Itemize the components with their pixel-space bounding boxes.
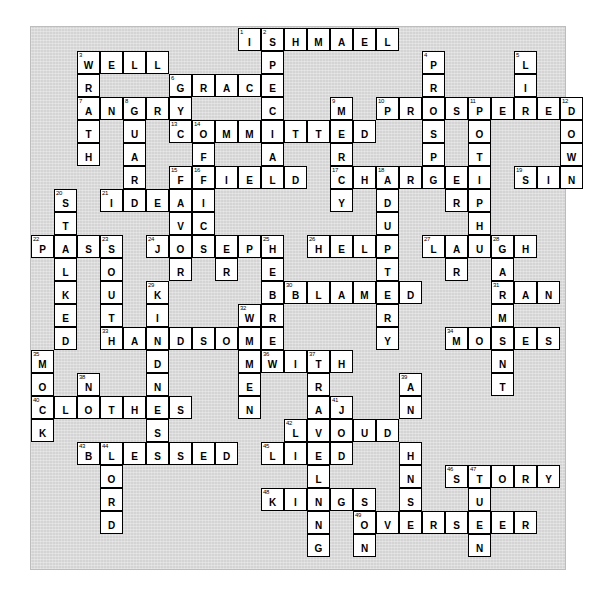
crossword-cell[interactable]: H	[468, 212, 491, 235]
crossword-cell[interactable]: 17C	[330, 166, 353, 189]
crossword-cell[interactable]: L	[353, 235, 376, 258]
crossword-cell[interactable]: R	[514, 465, 537, 488]
crossword-cell[interactable]: G	[307, 534, 330, 557]
crossword-cell[interactable]: H	[77, 143, 100, 166]
crossword-cell[interactable]: A	[514, 281, 537, 304]
crossword-cell[interactable]: D	[54, 327, 77, 350]
crossword-cell[interactable]: D	[284, 166, 307, 189]
crossword-cell[interactable]: E	[514, 327, 537, 350]
crossword-cell[interactable]: O	[422, 97, 445, 120]
crossword-cell[interactable]: Y	[169, 97, 192, 120]
crossword-cell[interactable]: Y	[330, 189, 353, 212]
crossword-cell[interactable]: M	[238, 120, 261, 143]
crossword-cell[interactable]: E	[353, 28, 376, 51]
crossword-cell[interactable]: D	[353, 120, 376, 143]
crossword-cell[interactable]: R	[169, 258, 192, 281]
crossword-cell[interactable]: N	[537, 281, 560, 304]
crossword-cell[interactable]: 45L	[261, 442, 284, 465]
crossword-cell[interactable]: E	[192, 442, 215, 465]
crossword-cell[interactable]: D	[146, 350, 169, 373]
crossword-cell[interactable]: U	[468, 488, 491, 511]
crossword-cell[interactable]: W	[560, 143, 583, 166]
crossword-cell[interactable]: K	[31, 419, 54, 442]
crossword-cell[interactable]: E	[330, 235, 353, 258]
crossword-cell[interactable]: 29K	[146, 281, 169, 304]
crossword-cell[interactable]: D	[100, 511, 123, 534]
crossword-cell[interactable]: 15F	[169, 166, 192, 189]
crossword-cell[interactable]: 6G	[169, 74, 192, 97]
crossword-cell[interactable]: R	[307, 373, 330, 396]
crossword-cell[interactable]: R	[445, 258, 468, 281]
crossword-cell[interactable]: N	[399, 465, 422, 488]
crossword-cell[interactable]: N	[146, 373, 169, 396]
crossword-cell[interactable]: T	[77, 120, 100, 143]
crossword-cell[interactable]: R	[330, 143, 353, 166]
crossword-cell[interactable]: 30B	[284, 281, 307, 304]
crossword-cell[interactable]: 3W	[77, 51, 100, 74]
crossword-cell[interactable]: 41J	[330, 396, 353, 419]
crossword-cell[interactable]: S	[77, 235, 100, 258]
crossword-cell[interactable]: O	[330, 419, 353, 442]
crossword-cell[interactable]: 14O	[192, 120, 215, 143]
crossword-cell[interactable]: U	[123, 120, 146, 143]
crossword-cell[interactable]: U	[468, 235, 491, 258]
crossword-cell[interactable]: M	[215, 120, 238, 143]
crossword-cell[interactable]: A	[445, 235, 468, 258]
crossword-cell[interactable]: H	[514, 235, 537, 258]
crossword-cell[interactable]: I	[261, 120, 284, 143]
crossword-grid[interactable]: 1I2SHMAEL3WELLP4P5LR6GRACERI7AN8GRYC9M10…	[31, 27, 565, 569]
crossword-cell[interactable]: V	[307, 419, 330, 442]
crossword-cell[interactable]: I	[284, 350, 307, 373]
crossword-cell[interactable]: O	[468, 120, 491, 143]
crossword-board[interactable]: 1I2SHMAEL3WELLP4P5LR6GRACERI7AN8GRYC9M10…	[30, 26, 566, 570]
crossword-cell[interactable]: L	[307, 465, 330, 488]
crossword-cell[interactable]: E	[261, 258, 284, 281]
crossword-cell[interactable]: L	[307, 281, 330, 304]
crossword-cell[interactable]: S	[192, 327, 215, 350]
crossword-cell[interactable]: H	[353, 166, 376, 189]
crossword-cell[interactable]: E	[146, 189, 169, 212]
crossword-cell[interactable]: S	[146, 419, 169, 442]
crossword-cell[interactable]: D	[376, 419, 399, 442]
crossword-cell[interactable]: T	[54, 212, 77, 235]
crossword-cell[interactable]: 32W	[238, 304, 261, 327]
crossword-cell[interactable]: 11P	[468, 97, 491, 120]
crossword-cell[interactable]: O	[169, 235, 192, 258]
crossword-cell[interactable]: O	[100, 258, 123, 281]
crossword-cell[interactable]: E	[307, 442, 330, 465]
crossword-cell[interactable]: 28G	[491, 235, 514, 258]
crossword-cell[interactable]: T	[100, 396, 123, 419]
crossword-cell[interactable]: A	[330, 28, 353, 51]
crossword-cell[interactable]: 4P	[422, 51, 445, 74]
crossword-cell[interactable]: U	[376, 212, 399, 235]
crossword-cell[interactable]: R	[376, 304, 399, 327]
crossword-cell[interactable]: G	[330, 488, 353, 511]
crossword-cell[interactable]: R	[146, 97, 169, 120]
crossword-cell[interactable]: S	[445, 97, 468, 120]
crossword-cell[interactable]: 46S	[445, 465, 468, 488]
crossword-cell[interactable]: A	[123, 327, 146, 350]
crossword-cell[interactable]: N	[307, 488, 330, 511]
crossword-cell[interactable]: O	[491, 465, 514, 488]
crossword-cell[interactable]: R	[422, 511, 445, 534]
crossword-cell[interactable]: 1I	[238, 28, 261, 51]
crossword-cell[interactable]: 12D	[560, 97, 583, 120]
crossword-cell[interactable]: T	[376, 258, 399, 281]
crossword-cell[interactable]: I	[215, 166, 238, 189]
crossword-cell[interactable]: Y	[537, 465, 560, 488]
crossword-cell[interactable]: D	[399, 281, 422, 304]
crossword-cell[interactable]: A	[123, 143, 146, 166]
crossword-cell[interactable]: 18A	[376, 166, 399, 189]
crossword-cell[interactable]: E	[399, 511, 422, 534]
crossword-cell[interactable]: D	[330, 442, 353, 465]
crossword-cell[interactable]: 33H	[100, 327, 123, 350]
crossword-cell[interactable]: 19S	[514, 166, 537, 189]
crossword-cell[interactable]: S	[422, 120, 445, 143]
crossword-cell[interactable]: V	[376, 511, 399, 534]
crossword-cell[interactable]: G	[422, 166, 445, 189]
crossword-cell[interactable]: M	[307, 28, 330, 51]
crossword-cell[interactable]: E	[238, 373, 261, 396]
crossword-cell[interactable]: 10P	[376, 97, 399, 120]
crossword-cell[interactable]: V	[169, 212, 192, 235]
crossword-cell[interactable]: 44L	[100, 442, 123, 465]
